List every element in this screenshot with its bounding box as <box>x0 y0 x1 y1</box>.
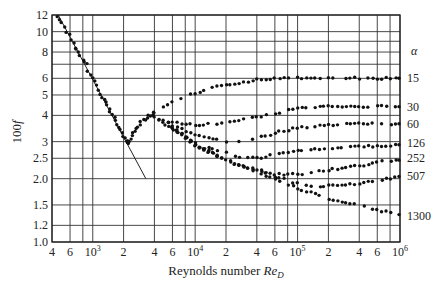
data-point <box>327 76 330 79</box>
data-point <box>278 77 281 80</box>
data-point <box>255 168 258 171</box>
data-point <box>136 125 139 128</box>
data-point <box>215 123 218 126</box>
x-tick-label: 6 <box>272 245 278 259</box>
data-point <box>206 122 209 125</box>
data-point <box>331 105 334 108</box>
y-tick-label: 1.2 <box>33 218 48 232</box>
x-tick-label: 103 <box>85 244 101 259</box>
x-tick-label: 106 <box>392 244 408 259</box>
data-point <box>323 147 326 150</box>
data-point <box>344 201 347 204</box>
data-point <box>358 77 361 80</box>
data-point <box>282 177 285 180</box>
data-point <box>376 144 379 147</box>
data-point <box>237 82 240 85</box>
x-tick-label: 2 <box>223 245 229 259</box>
y-tick-label: 12 <box>36 8 48 22</box>
data-point <box>393 175 396 178</box>
data-point <box>215 84 218 87</box>
data-point <box>260 157 263 160</box>
data-point <box>353 76 356 79</box>
data-point <box>344 77 347 80</box>
data-point <box>305 190 308 193</box>
data-point <box>331 76 334 79</box>
data-point <box>194 124 197 127</box>
data-point <box>278 180 281 183</box>
data-point <box>305 76 308 79</box>
data-point <box>184 130 187 133</box>
data-point <box>362 106 365 109</box>
data-point <box>93 79 96 82</box>
data-point <box>353 202 356 205</box>
data-point <box>331 124 334 127</box>
y-axis-label-italic: f <box>9 118 24 124</box>
data-point <box>211 137 214 140</box>
data-point <box>389 77 392 80</box>
alpha-label-1300: 1300 <box>407 209 431 223</box>
data-point <box>358 164 361 167</box>
data-point <box>397 105 400 108</box>
y-tick-label: 10 <box>36 25 48 39</box>
data-point <box>371 180 374 183</box>
data-point <box>180 122 183 125</box>
data-point <box>233 119 236 122</box>
data-point <box>282 151 285 154</box>
alpha-label-126: 126 <box>407 136 425 150</box>
data-point <box>251 169 254 172</box>
data-point <box>326 104 329 107</box>
data-point <box>380 104 383 107</box>
data-point <box>146 113 149 116</box>
alpha-label-507: 507 <box>407 169 425 183</box>
data-point <box>380 210 383 213</box>
data-point <box>301 106 304 109</box>
data-point <box>318 77 321 80</box>
data-point <box>188 122 191 125</box>
data-point <box>345 105 348 108</box>
data-point <box>340 166 343 169</box>
data-point <box>304 106 307 109</box>
data-point <box>238 156 241 159</box>
y-tick-label: 2.0 <box>33 172 48 186</box>
data-point <box>353 122 356 125</box>
data-point <box>225 150 228 153</box>
data-point <box>277 176 280 179</box>
y-tick-label: 8 <box>42 45 48 59</box>
data-point <box>327 183 330 186</box>
x-tick-label: 6 <box>374 245 380 259</box>
data-point <box>313 125 316 128</box>
data-point <box>301 173 304 176</box>
data-point <box>353 183 356 186</box>
data-point <box>366 105 369 108</box>
data-point <box>385 76 388 79</box>
data-point <box>82 60 85 63</box>
data-point <box>206 151 209 154</box>
data-point <box>197 134 200 137</box>
data-point <box>366 76 369 79</box>
data-point <box>91 76 94 79</box>
data-point <box>313 106 316 109</box>
data-point <box>246 156 249 159</box>
data-point <box>384 145 387 148</box>
data-point <box>259 172 262 175</box>
data-point <box>277 129 280 132</box>
data-point <box>336 199 339 202</box>
data-point <box>327 123 330 126</box>
data-point <box>163 123 166 126</box>
data-point <box>390 159 393 162</box>
data-point <box>322 169 325 172</box>
y-tick-label: 4 <box>42 108 48 122</box>
data-point <box>203 147 206 150</box>
data-point <box>397 77 400 80</box>
data-point <box>264 155 267 158</box>
data-point <box>353 144 356 147</box>
data-point <box>286 172 289 175</box>
data-point <box>274 112 277 115</box>
data-point <box>161 121 164 124</box>
data-point <box>229 160 232 163</box>
data-point <box>380 159 383 162</box>
data-point <box>376 77 379 80</box>
data-point <box>234 155 237 158</box>
x-tick-label: 6 <box>169 245 175 259</box>
data-point <box>264 175 267 178</box>
